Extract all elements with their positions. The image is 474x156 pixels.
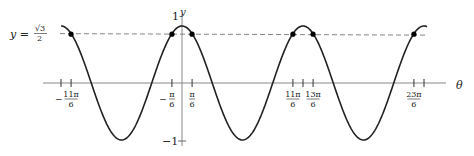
x-tick-label-sign: − bbox=[159, 94, 167, 104]
sqrt3-over-2-dashed-line bbox=[60, 34, 428, 36]
x-tick-label-denominator: 6 bbox=[190, 100, 195, 109]
intersection-point bbox=[310, 32, 315, 37]
x-tick-label-numerator: 13π bbox=[305, 90, 320, 99]
x-tick-label: 11π6 bbox=[285, 90, 300, 109]
cosine-graph: 11π6−π6−π611π613π623π6 1 y −1 θ y = √3 2 bbox=[0, 0, 474, 156]
x-tick-label: π6 bbox=[189, 90, 195, 109]
x-tick-label-denominator: 6 bbox=[290, 100, 295, 109]
intersection-point bbox=[68, 32, 73, 37]
x-tick-label: 23π6 bbox=[406, 90, 421, 109]
x-tick-label-numerator: 11π bbox=[285, 90, 300, 99]
ref-line-label-den: 2 bbox=[37, 34, 42, 43]
x-tick-label-numerator: 23π bbox=[406, 90, 421, 99]
x-axis-label: θ bbox=[456, 79, 463, 92]
intersection-point bbox=[411, 32, 416, 37]
x-tick-label-denominator: 6 bbox=[69, 100, 74, 109]
y-tick-label-one: 1 bbox=[172, 10, 179, 23]
ref-line-label-lhs: y = bbox=[9, 28, 29, 41]
intersection-point bbox=[189, 32, 194, 37]
x-tick-label-numerator: π bbox=[189, 90, 194, 99]
intersection-point bbox=[169, 32, 174, 37]
x-tick-label-denominator: 6 bbox=[411, 100, 416, 109]
x-tick-label: 11π6− bbox=[55, 90, 79, 109]
ref-line-label-num: √3 bbox=[35, 24, 45, 33]
x-tick-label: π6− bbox=[159, 90, 175, 109]
x-tick-label-numerator: π bbox=[169, 90, 174, 99]
x-tick-label: 13π6 bbox=[305, 90, 320, 109]
x-tick-label-denominator: 6 bbox=[169, 100, 174, 109]
y-tick-label-minus-one: −1 bbox=[162, 135, 178, 148]
intersection-point bbox=[290, 32, 295, 37]
x-tick-label-sign: − bbox=[55, 94, 63, 104]
x-tick-label-numerator: 11π bbox=[63, 90, 78, 99]
x-tick-label-denominator: 6 bbox=[311, 100, 316, 109]
y-axis-label: y bbox=[179, 6, 186, 17]
